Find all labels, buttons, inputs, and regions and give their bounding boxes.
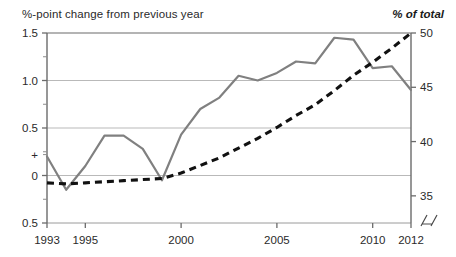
- left-tick-label-0.5: 0.5: [22, 122, 38, 134]
- right-tick-label-35: 35: [420, 190, 433, 202]
- x-tick-label-2012: 2012: [398, 234, 424, 246]
- x-tick-label-2005: 2005: [264, 234, 290, 246]
- x-tick-label-2000: 2000: [168, 234, 194, 246]
- left-tick-label-0: 0: [32, 170, 38, 182]
- right-tick-label-45: 45: [420, 81, 433, 93]
- right-tick-label-40: 40: [420, 136, 433, 148]
- x-tick-label-1993: 1993: [34, 234, 60, 246]
- right-tick-label-50: 50: [420, 27, 433, 39]
- series-line-2: [47, 33, 411, 184]
- left-tick-label-1.0: 1.0: [22, 75, 38, 87]
- left-tick-label-1.5: 1.5: [22, 27, 38, 39]
- chart-plot: 0.500.51.01.5+35404550199319952000200520…: [0, 0, 456, 257]
- x-tick-label-2010: 2010: [360, 234, 386, 246]
- left-tick-label-0.5: 0.5: [22, 217, 38, 229]
- left-zero-sign: +: [31, 149, 38, 161]
- series-line-1: [47, 38, 411, 190]
- axis-break-icon: [421, 215, 437, 226]
- x-tick-label-1995: 1995: [73, 234, 99, 246]
- chart-container: %-point change from previous year % of t…: [0, 0, 456, 257]
